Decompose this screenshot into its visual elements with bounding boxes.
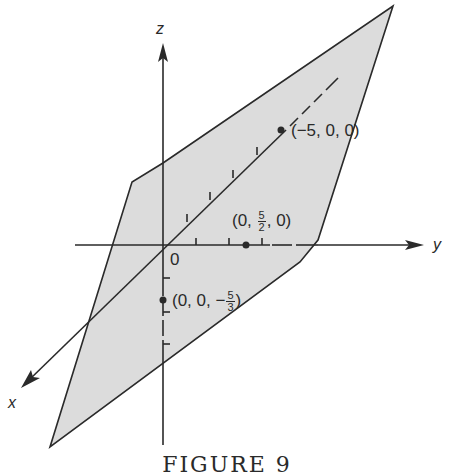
y-intercept-fraction: 52 bbox=[258, 210, 266, 233]
y-intercept-label-prefix: (0, bbox=[232, 211, 257, 230]
y-intercept-label: (0, 52, 0) bbox=[232, 210, 291, 233]
fraction-denominator: 2 bbox=[258, 222, 266, 233]
z-intercept-dot bbox=[160, 297, 167, 304]
z-intercept-label-prefix: (0, 0, − bbox=[172, 291, 225, 310]
z-intercept-label: (0, 0, −53) bbox=[172, 290, 241, 313]
figure-caption: FIGURE 9 bbox=[0, 452, 454, 476]
plane bbox=[50, 6, 393, 447]
y-intercept-label-suffix: , 0) bbox=[267, 211, 292, 230]
z-axis-label: z bbox=[156, 21, 164, 37]
origin-label: 0 bbox=[170, 251, 179, 268]
x-intercept-dot bbox=[278, 127, 285, 134]
y-intercept-dot bbox=[243, 242, 250, 249]
z-intercept-label-suffix: ) bbox=[236, 291, 242, 310]
y-axis-label: y bbox=[433, 237, 441, 253]
x-axis-label: x bbox=[8, 395, 16, 411]
z-intercept-fraction: 53 bbox=[226, 290, 234, 313]
x-intercept-label: (−5, 0, 0) bbox=[291, 122, 360, 139]
fraction-denominator: 3 bbox=[226, 302, 234, 313]
